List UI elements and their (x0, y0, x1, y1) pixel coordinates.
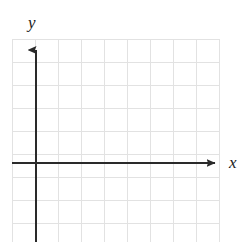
coordinate-plane-figure: y x (0, 0, 241, 242)
y-axis-label: y (28, 14, 36, 31)
x-axis-label: x (229, 154, 237, 171)
coordinate-plane-canvas (0, 0, 241, 242)
